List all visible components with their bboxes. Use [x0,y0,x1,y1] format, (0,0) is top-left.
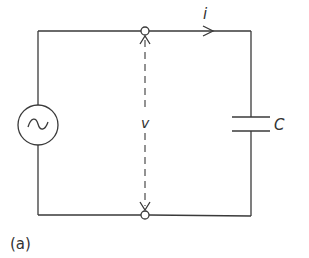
capacitor-label: C [274,116,285,134]
circuit-diagram: i v C (a) [0,0,309,258]
terminal-top-icon [141,27,149,35]
ac-source-icon [18,105,58,145]
capacitor-icon [232,117,270,131]
voltage-label: v [141,115,150,131]
current-label: i [203,5,208,23]
figure-caption: (a) [10,235,31,253]
terminal-bottom-icon [141,211,149,219]
